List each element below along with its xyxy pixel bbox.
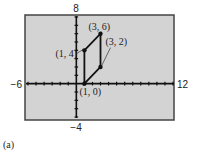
figure-caption: (a) [3, 139, 14, 151]
y-min-label: −4 [70, 122, 82, 133]
point-label: (3, 2) [106, 36, 128, 48]
x-min-label: −6 [11, 79, 23, 90]
data-point [82, 48, 86, 52]
point-label: (3, 6) [89, 21, 111, 33]
point-label: (1, 4) [55, 48, 77, 60]
x-max-label: 12 [177, 79, 189, 90]
chart: (1, 0)(3, 2)(3, 6)(1, 4) 8 −4 −6 12 (a) [0, 0, 199, 151]
point-label: (1, 0) [79, 86, 101, 98]
y-max-label: 8 [73, 3, 79, 14]
data-point [98, 31, 102, 35]
